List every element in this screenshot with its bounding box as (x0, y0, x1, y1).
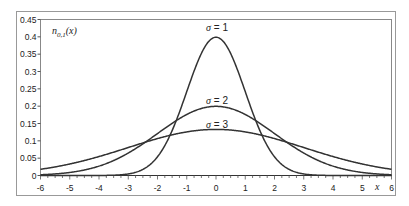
y-tick-label: 0.25 (20, 84, 37, 94)
x-tick-label: 4 (331, 183, 336, 193)
y-tick-label: 0 (32, 171, 37, 181)
x-tick-label: -2 (154, 183, 162, 193)
x-tick-label: 0 (214, 183, 219, 193)
x-tick-label: -3 (124, 183, 132, 193)
normal-distribution-chart: 00.050.10.150.20.250.30.350.40.45 -6-5-4… (0, 0, 409, 206)
x-tick-label: -6 (37, 183, 45, 193)
x-tick-label: -5 (66, 183, 74, 193)
y-tick-label: 0.2 (25, 101, 37, 111)
x-tick-label: 5 (360, 183, 365, 193)
curve-label-sigma-3: σ = 3 (206, 119, 228, 130)
y-tick-label: 0.4 (25, 32, 37, 42)
x-tick-label: 1 (243, 183, 248, 193)
x-tick-label: -1 (183, 183, 191, 193)
x-tick-label: 6 (389, 183, 394, 193)
x-tick-label: -4 (95, 183, 103, 193)
y-axis-title-sub: 0,1 (57, 31, 66, 39)
y-tick-label: 0.35 (20, 49, 37, 59)
y-tick-label: 0.15 (20, 119, 37, 129)
x-tick-label: 2 (272, 183, 277, 193)
y-tick-label: 0.45 (20, 15, 37, 25)
y-tick-label: 0.05 (20, 153, 37, 163)
curve-label-sigma-2: σ = 2 (206, 95, 228, 106)
x-tick-label: 3 (301, 183, 306, 193)
x-axis-title: x (374, 181, 380, 192)
y-axis-title-arg: (x) (66, 25, 78, 37)
y-tick-label: 0.3 (25, 67, 37, 77)
curve-label-sigma-1: σ = 1 (206, 22, 228, 33)
y-tick-label: 0.1 (25, 136, 37, 146)
